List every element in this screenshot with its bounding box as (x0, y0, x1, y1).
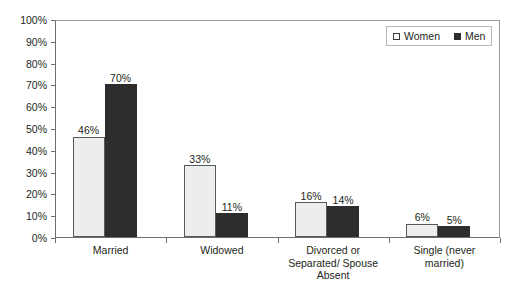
legend-item-men: Men (454, 31, 485, 42)
x-axis-tick-mark (389, 238, 390, 243)
y-axis-tick-label: 10% (26, 211, 47, 222)
bar-men-3: 5% (438, 226, 470, 237)
bar-men-0: 70% (105, 84, 137, 237)
x-axis-category-line: Married (55, 244, 166, 257)
plot-area: 46%33%16%6%70%11%14%5% (55, 20, 500, 238)
bar-value-label: 46% (78, 125, 99, 136)
y-axis-tick-label: 60% (26, 102, 47, 113)
bar-value-label: 70% (110, 73, 131, 84)
x-axis-tick-mark (55, 238, 56, 243)
bar-value-label: 5% (447, 215, 462, 226)
bar-value-label: 6% (415, 212, 430, 223)
bar-chart: 0%10%20%30%40%50%60%70%80%90%100% 46%33%… (0, 0, 522, 298)
bar-value-label: 33% (189, 154, 210, 165)
legend-swatch-men-icon (454, 33, 461, 40)
y-axis-tick-label: 30% (26, 167, 47, 178)
legend-swatch-women-icon (393, 33, 400, 40)
x-axis-category-line: Single (never (389, 244, 500, 257)
x-axis-category-line: Divorced or (278, 244, 389, 257)
legend-label: Women (404, 31, 440, 42)
x-axis-category-line: married) (389, 257, 500, 270)
x-axis-tick-mark (278, 238, 279, 243)
y-axis-tick-label: 70% (26, 80, 47, 91)
x-axis-category-label: Widowed (166, 244, 277, 257)
legend-item-women: Women (393, 31, 440, 42)
y-axis-tick-label: 50% (26, 124, 47, 135)
x-axis-category-label: Single (nevermarried) (389, 244, 500, 269)
bar-women-2: 16% (295, 202, 327, 237)
y-axis-tick-label: 40% (26, 146, 47, 157)
legend-label: Men (465, 31, 485, 42)
bar-value-label: 11% (222, 202, 242, 213)
x-axis-category-line: Separated/ Spouse (278, 257, 389, 270)
y-axis-tick-label: 80% (26, 58, 47, 69)
bar-women-1: 33% (184, 165, 216, 237)
bar-men-2: 14% (327, 206, 359, 237)
x-axis-category-line: Widowed (166, 244, 277, 257)
y-axis-tick-label: 20% (26, 189, 47, 200)
x-axis-tick-mark (166, 238, 167, 243)
y-axis-tick-label: 90% (26, 37, 47, 48)
x-axis-category-line: Absent (278, 269, 389, 282)
x-axis-category-label: Divorced orSeparated/ SpouseAbsent (278, 244, 389, 282)
bar-women-0: 46% (73, 137, 105, 237)
chart-legend: WomenMen (386, 26, 492, 46)
y-axis-tick-label: 100% (20, 15, 47, 26)
x-axis-tick-mark (500, 238, 501, 243)
bar-women-3: 6% (406, 224, 438, 237)
y-axis-tick-label: 0% (32, 233, 47, 244)
bar-value-label: 14% (333, 195, 354, 206)
x-axis-category-label: Married (55, 244, 166, 257)
bar-value-label: 16% (301, 191, 322, 202)
y-axis: 0%10%20%30%40%50%60%70%80%90%100% (0, 20, 47, 238)
x-axis-labels: MarriedWidowedDivorced orSeparated/ Spou… (55, 244, 500, 296)
bar-men-1: 11% (216, 213, 248, 237)
